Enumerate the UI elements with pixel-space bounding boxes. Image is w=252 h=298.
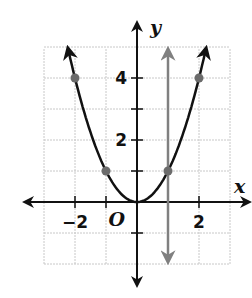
x-tick-label: 2	[193, 212, 205, 232]
data-point	[195, 74, 204, 83]
y-tick-label: 2	[115, 130, 127, 150]
y-axis-label: y	[149, 16, 163, 38]
y-tick-label: 4	[115, 68, 127, 88]
axes	[28, 26, 246, 282]
origin-label: O	[108, 208, 125, 230]
labels-layer: −2224Oxy	[62, 16, 246, 232]
data-point	[102, 167, 111, 176]
x-tick-label: −2	[62, 212, 88, 232]
coordinate-plane: −2224Oxy	[0, 0, 252, 298]
data-point	[164, 167, 173, 176]
x-axis-label: x	[233, 175, 246, 197]
data-point	[71, 74, 80, 83]
